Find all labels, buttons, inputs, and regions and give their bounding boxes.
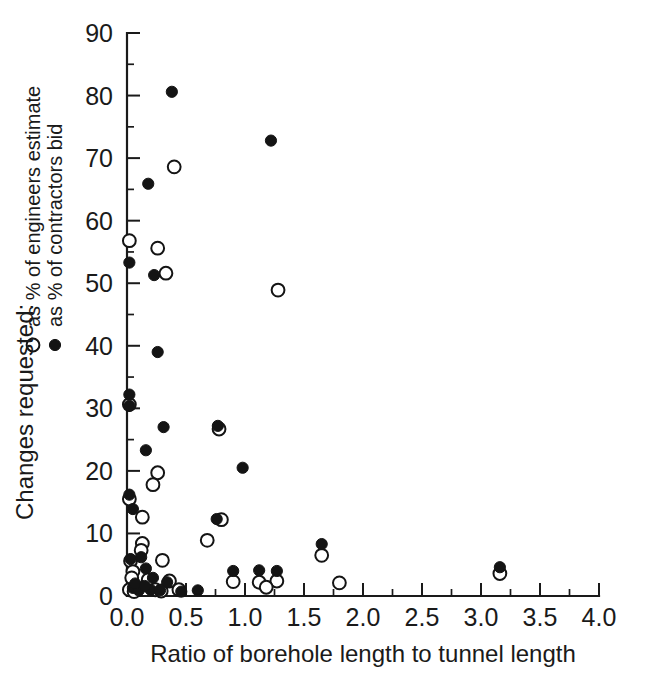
data-point-filled: [124, 400, 135, 411]
data-point-open: [156, 554, 169, 567]
data-point-filled: [127, 503, 138, 514]
data-point-filled: [265, 135, 276, 146]
data-point-filled: [228, 565, 239, 576]
x-tick-label: 0.5: [169, 603, 204, 631]
data-point-open: [151, 466, 164, 479]
data-point-filled: [124, 389, 135, 400]
data-point-filled: [143, 178, 154, 189]
data-point-open: [151, 242, 164, 255]
data-point-open: [227, 575, 240, 588]
series-engineers-estimate: [123, 160, 506, 598]
data-point-filled: [149, 269, 160, 280]
x-tick-label: 3.5: [523, 603, 558, 631]
x-tick-label: 2.0: [346, 603, 381, 631]
data-point-filled: [136, 552, 147, 563]
data-point-filled: [212, 420, 223, 431]
legend-marker-filled-circle: [49, 339, 60, 350]
data-point-open: [147, 478, 160, 491]
x-tick-label: 4.0: [582, 603, 617, 631]
data-point-filled: [158, 422, 169, 433]
x-tick-label: 0.0: [110, 603, 145, 631]
data-points: [123, 86, 506, 598]
data-point-filled: [140, 445, 151, 456]
data-point-open: [333, 576, 346, 589]
y-tick-label: 10: [85, 519, 113, 547]
y-tick-label: 70: [85, 144, 113, 172]
data-point-filled: [176, 586, 187, 597]
x-tick-label: 1.0: [228, 603, 263, 631]
series-contractors-bid: [124, 86, 506, 597]
data-point-open: [201, 534, 214, 547]
x-tick-label: 1.5: [287, 603, 322, 631]
data-point-filled: [271, 565, 282, 576]
x-tick-label: 2.5: [405, 603, 440, 631]
x-tick-label: 3.0: [464, 603, 499, 631]
data-point-filled: [139, 580, 150, 591]
y-tick-label: 0: [99, 582, 113, 610]
data-point-filled: [192, 585, 203, 596]
data-point-open: [315, 549, 328, 562]
x-axis-tick-labels: 0.00.51.01.52.02.53.03.54.0: [110, 603, 617, 631]
x-axis-title: Ratio of borehole length to tunnel lengt…: [150, 640, 576, 667]
y-tick-label: 50: [85, 269, 113, 297]
data-point-open: [123, 234, 136, 247]
data-point-filled: [152, 346, 163, 357]
y-axis-tick-labels: 0102030405060708090: [85, 19, 113, 610]
plot-canvas: 0.00.51.01.52.02.53.03.54.0 010203040506…: [0, 0, 648, 697]
data-point-filled: [124, 257, 135, 268]
y-tick-label: 90: [85, 19, 113, 47]
data-point-filled: [140, 563, 151, 574]
data-point-filled: [166, 86, 177, 97]
data-point-open: [272, 284, 285, 297]
axes: [127, 33, 599, 596]
y-tick-label: 20: [85, 457, 113, 485]
y-tick-label: 40: [85, 332, 113, 360]
data-point-open: [168, 160, 181, 173]
legend-label-engineers-estimate: as % of engineers estimate: [22, 86, 44, 327]
data-point-open: [160, 267, 173, 280]
data-point-open: [260, 581, 273, 594]
axis-ticks: [127, 33, 599, 596]
data-point-open: [136, 511, 149, 524]
scatter-plot-figure: 0.00.51.01.52.02.53.03.54.0 010203040506…: [0, 0, 648, 697]
data-point-filled: [494, 562, 505, 573]
y-tick-label: 80: [85, 82, 113, 110]
data-point-filled: [124, 489, 135, 500]
data-point-filled: [237, 462, 248, 473]
data-point-filled: [316, 538, 327, 549]
data-point-filled: [211, 513, 222, 524]
y-tick-label: 30: [85, 394, 113, 422]
legend-label-contractors-bid: as % of contractors bid: [44, 124, 66, 327]
data-point-filled: [254, 565, 265, 576]
data-point-filled: [125, 553, 136, 564]
y-tick-label: 60: [85, 207, 113, 235]
data-point-filled: [154, 585, 165, 596]
y-axis-title: Changes requested:: [11, 304, 38, 520]
